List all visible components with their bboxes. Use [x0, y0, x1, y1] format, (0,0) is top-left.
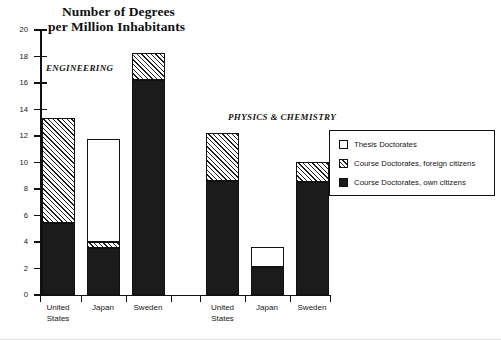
legend-item-course-doctorates-foreign: Course Doctorates, foreign citizens [339, 159, 475, 168]
y-axis-tick-label: 10 [2, 158, 28, 167]
bar-segment-foreign [42, 118, 75, 223]
y-axis-tick [34, 56, 47, 57]
x-axis [40, 295, 330, 297]
legend-item-thesis-doctorates: Thesis Doctorates [339, 140, 417, 149]
chart-figure: Number of Degrees per Million Inhabitant… [0, 0, 501, 340]
x-axis-tick [200, 295, 201, 302]
legend-swatch-black-icon [339, 178, 348, 187]
y-axis-tick-label: 6 [2, 211, 28, 220]
y-axis-tick-label: 18 [2, 52, 28, 61]
category-label-line: States [28, 314, 88, 325]
x-axis-category-label: Sweden [118, 303, 178, 314]
bar-segment-own [251, 267, 284, 295]
y-axis-tick [34, 82, 47, 83]
legend-label-course-doctorates-foreign: Course Doctorates, foreign citizens [354, 159, 475, 168]
bar-segment-own [296, 182, 329, 295]
y-axis-tick-label: 20 [2, 25, 28, 34]
bar-japan [87, 139, 120, 294]
legend-label-thesis-doctorates: Thesis Doctorates [354, 140, 417, 149]
bar-segment-foreign [132, 53, 165, 80]
bar-segment-foreign [296, 162, 329, 182]
bar-united-states [206, 133, 239, 295]
y-axis-tick [34, 109, 47, 110]
x-axis-tick [290, 295, 291, 302]
y-axis-tick-label: 16 [2, 78, 28, 87]
bar-segment-thesis [87, 139, 120, 241]
bar-segment-own [206, 181, 239, 295]
y-axis-tick [34, 29, 47, 30]
y-axis-tick-label: 14 [2, 105, 28, 114]
x-axis-tick [171, 295, 172, 302]
x-axis-tick [81, 295, 82, 302]
y-axis-tick-label: 0 [2, 290, 28, 299]
y-axis-tick-label: 8 [2, 184, 28, 193]
bar-segment-own [42, 223, 75, 295]
category-label-line: States [193, 314, 253, 325]
bar-japan [251, 247, 284, 295]
x-axis-category-label: Sweden [282, 303, 342, 314]
chart-legend: Thesis Doctorates Course Doctorates, for… [329, 130, 495, 196]
category-label-line: Sweden [282, 303, 342, 314]
bar-segment-thesis [251, 247, 284, 267]
bar-segment-foreign [87, 242, 120, 249]
x-axis-tick [245, 295, 246, 302]
bar-segment-foreign [206, 133, 239, 181]
legend-swatch-hatched-icon [339, 159, 348, 168]
category-label-line: Sweden [118, 303, 178, 314]
bar-sweden [132, 53, 165, 294]
legend-swatch-white-icon [339, 140, 348, 149]
legend-item-course-doctorates-own: Course Doctorates, own citizens [339, 178, 466, 187]
bar-sweden [296, 162, 329, 295]
x-axis-tick [126, 295, 127, 302]
x-axis-tick [330, 295, 331, 302]
bar-segment-own [87, 248, 120, 294]
y-axis-tick-label: 12 [2, 131, 28, 140]
y-axis-tick-label: 4 [2, 237, 28, 246]
x-axis-tick [40, 295, 41, 302]
bar-segment-own [132, 80, 165, 295]
y-axis-tick-label: 2 [2, 264, 28, 273]
bar-united-states [42, 118, 75, 294]
legend-label-course-doctorates-own: Course Doctorates, own citizens [354, 178, 466, 187]
